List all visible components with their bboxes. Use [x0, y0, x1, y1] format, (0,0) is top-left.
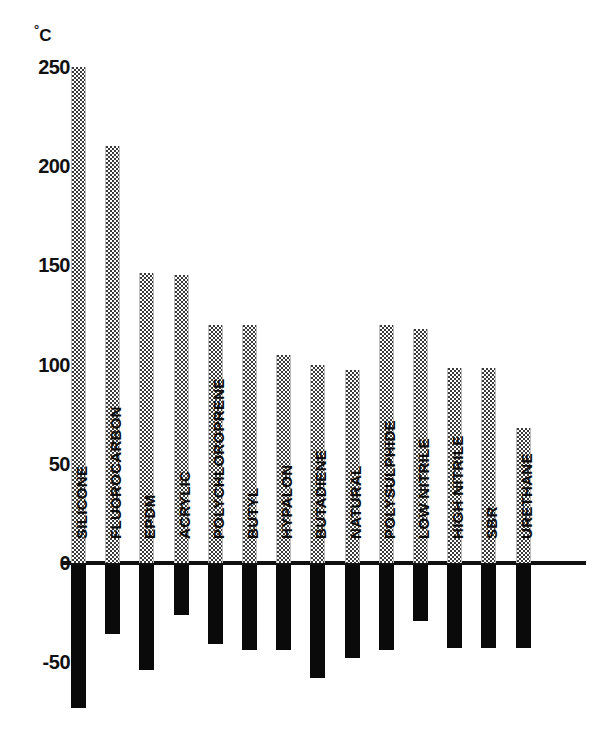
bar-category-label: ACRYLIC	[175, 471, 192, 539]
bar-negative[interactable]	[242, 565, 257, 650]
plot-area: SILICONEFLUOROCARBONEPDMACRYLICPOLYCHLOR…	[0, 0, 596, 737]
bar-group[interactable]: ACRYLIC	[174, 0, 194, 737]
bar-group[interactable]: BUTADIENE	[310, 0, 330, 737]
bar-negative[interactable]	[174, 565, 189, 615]
temperature-range-bar-chart: °C 250200150100500-50 SILICONEFLUOROCARB…	[0, 0, 596, 737]
bar-group[interactable]: HYPALON	[276, 0, 296, 737]
bar-group[interactable]: URETHANE	[516, 0, 536, 737]
bar-negative[interactable]	[139, 565, 154, 670]
bar-negative[interactable]	[481, 565, 496, 648]
bar-category-label: SBR	[483, 506, 500, 539]
bar-category-label: NATURAL	[346, 466, 363, 539]
bar-negative[interactable]	[379, 565, 394, 650]
bar-category-label: POLYCHLOROPRENE	[209, 378, 226, 539]
bar-negative[interactable]	[208, 565, 223, 644]
bar-negative[interactable]	[345, 565, 360, 658]
bar-group[interactable]: POLYCHLOROPRENE	[208, 0, 228, 737]
bar-group[interactable]: HIGH NITRILE	[447, 0, 467, 737]
bar-negative[interactable]	[71, 565, 86, 708]
bar-group[interactable]: SBR	[481, 0, 501, 737]
bar-group[interactable]: EPDM	[139, 0, 159, 737]
bar-category-label: POLYSULPHIDE	[380, 420, 397, 539]
bar-category-label: EPDM	[141, 494, 158, 539]
bar-group[interactable]: SILICONE	[71, 0, 91, 737]
bar-negative[interactable]	[413, 565, 428, 621]
bar-group[interactable]: POLYSULPHIDE	[379, 0, 399, 737]
bar-category-label: FLUOROCARBON	[107, 406, 124, 539]
bar-category-label: BUTYL	[244, 488, 261, 540]
bar-negative[interactable]	[310, 565, 325, 678]
bar-category-label: HYPALON	[278, 465, 295, 539]
bar-group[interactable]: FLUOROCARBON	[105, 0, 125, 737]
bar-category-label: SILICONE	[73, 466, 90, 539]
bar-group[interactable]: NATURAL	[345, 0, 365, 737]
bar-negative[interactable]	[447, 565, 462, 648]
bar-category-label: BUTADIENE	[312, 450, 329, 539]
bar-category-label: URETHANE	[517, 453, 534, 539]
bar-group[interactable]: LOW NITRILE	[413, 0, 433, 737]
bar-negative[interactable]	[276, 565, 291, 650]
bar-negative[interactable]	[516, 565, 531, 648]
bar-category-label: HIGH NITRILE	[449, 435, 466, 539]
bar-negative[interactable]	[105, 565, 120, 634]
bar-group[interactable]: BUTYL	[242, 0, 262, 737]
bar-category-label: LOW NITRILE	[415, 438, 432, 539]
